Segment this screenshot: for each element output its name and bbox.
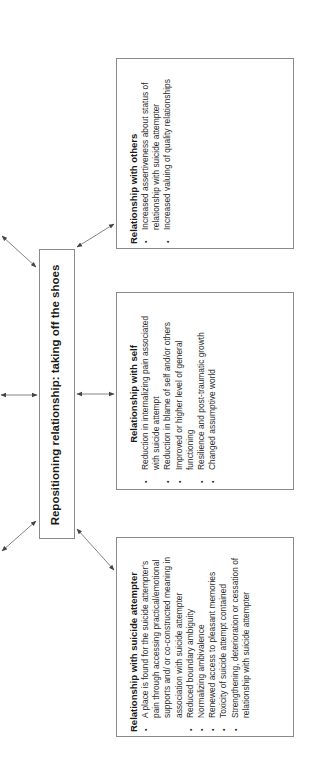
panel-title-others: Relationship with others <box>128 68 139 244</box>
list-self: Reduction in internalizing pain associat… <box>140 304 218 484</box>
panel-others: Relationship with others Increased asser… <box>116 58 294 249</box>
list-item: Increased valuing of quality relationshi… <box>162 68 173 244</box>
center-label: Repositioning relationship: taking off t… <box>49 254 61 536</box>
list-item: Strengthening, deterioration or cessatio… <box>230 546 252 732</box>
arrow-offscreen-bottom-left <box>2 521 36 551</box>
arrow-to-others <box>77 224 114 247</box>
list-item: Improved or higher level of general func… <box>174 304 196 484</box>
list-item: Reduced boundary ambiguity <box>185 546 196 732</box>
arrow-to-attempter <box>77 529 114 570</box>
arrow-offscreen-top-left <box>2 236 36 267</box>
list-item: Toxicity of suicide attempt contained <box>218 546 229 732</box>
panel-self: Relationship with self Reduction in inte… <box>116 292 294 490</box>
panel-attempter: Relationship with suicide attempter A pl… <box>116 537 294 737</box>
list-item: Renewed access to pleasant memories <box>207 546 218 732</box>
list-others: Increased assertiveness about status of … <box>140 68 174 244</box>
list-item: Increased assertiveness about status of … <box>140 68 162 244</box>
list-item: Normalizing ambivalence <box>196 546 207 732</box>
list-item: Reduction in internalizing pain associat… <box>140 304 162 484</box>
panel-title-attempter: Relationship with suicide attempter <box>128 546 139 732</box>
diagram-canvas: Repositioning relationship: taking off t… <box>0 0 317 778</box>
list-attempter: A place is found for the suicide attempt… <box>140 546 252 732</box>
list-item: Changed assumptive world <box>207 304 218 484</box>
list-item: Resilience and post-traumatic growth <box>196 304 207 484</box>
panel-title-self: Relationship with self <box>128 304 139 484</box>
center-box: Repositioning relationship: taking off t… <box>39 249 75 539</box>
list-item: Reduction in blame of self and/or others <box>162 304 173 484</box>
list-item: A place is found for the suicide attempt… <box>140 546 185 732</box>
